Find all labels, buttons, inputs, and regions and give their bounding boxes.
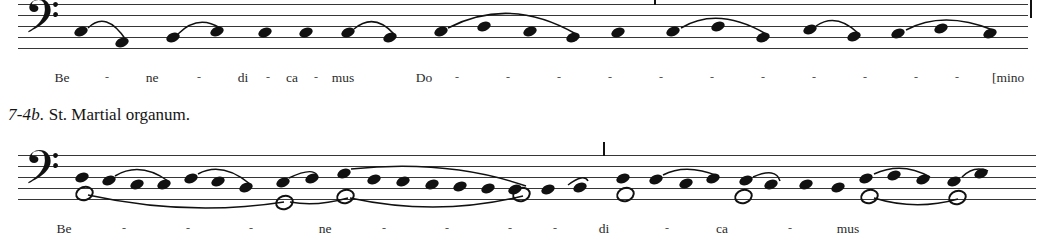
lyric-hyphen: -	[710, 70, 714, 85]
lyric-hyphen: -	[557, 70, 561, 85]
upper-voice-notehead	[366, 173, 382, 187]
lyric-hyphen: -	[608, 70, 612, 85]
lower-voice-notehead	[858, 186, 881, 206]
barline-tick	[603, 142, 605, 156]
upper-voice-notehead	[540, 183, 556, 197]
bass-clef-icon: 𝄢	[24, 0, 60, 50]
upper-voice-notehead	[710, 20, 726, 34]
upper-voice-notehead	[933, 22, 949, 36]
lyric-hyphen: -	[761, 70, 765, 85]
upper-voice-notehead	[648, 173, 664, 187]
lyric-syllable: Be	[57, 221, 72, 237]
upper-voice-notehead	[982, 27, 998, 41]
upper-voice-notehead	[886, 169, 902, 183]
upper-voice-notehead	[565, 31, 581, 45]
upper-voice-notehead	[798, 178, 814, 192]
upper-voice-notehead	[424, 178, 440, 192]
lyric-hyphen: -	[788, 221, 792, 236]
upper-voice-notehead	[183, 172, 199, 186]
lyric-hyphen: -	[955, 70, 959, 85]
upper-voice-notehead	[74, 171, 90, 185]
lyric-hyphen: -	[659, 70, 663, 85]
lyric-hyphen: -	[553, 221, 557, 236]
figure-page: 𝄢 Be-ne-di-ca-musDo-----------[mino 7-4b…	[0, 0, 1044, 242]
slur	[448, 13, 576, 34]
bass-clef-icon: 𝄢	[24, 145, 60, 201]
music-system-1: 𝄢	[0, 4, 1044, 66]
upper-voice-notehead	[336, 167, 352, 181]
upper-voice-notehead	[480, 182, 496, 196]
lyric-syllable: ne	[146, 70, 159, 86]
lyric-syllable: di	[238, 70, 249, 86]
upper-voice-notehead	[382, 31, 398, 45]
upper-voice-notehead	[830, 181, 846, 195]
lyric-syllable: ne	[319, 221, 332, 237]
lyric-syllable: mus	[837, 221, 860, 237]
lyric-syllable: di	[599, 221, 610, 237]
tenor-slur	[350, 196, 523, 207]
lyric-syllable: Be	[55, 70, 70, 86]
lyric-syllable: Do	[416, 70, 433, 86]
final-barline	[1030, 0, 1032, 18]
lyric-hyphen: -	[445, 221, 449, 236]
upper-voice-notehead	[890, 27, 906, 41]
upper-voice-notehead	[129, 178, 145, 192]
staff-line	[18, 26, 1028, 27]
music-system-2: 𝄢	[0, 155, 1044, 217]
upper-voice-notehead	[452, 180, 468, 194]
staff-line	[18, 4, 1028, 5]
upper-voice-notehead	[973, 167, 989, 181]
upper-voice-notehead	[304, 172, 320, 186]
staff-line	[18, 166, 1036, 167]
tenor-slur	[88, 195, 284, 208]
lower-voice-notehead	[273, 192, 296, 212]
lower-voice-notehead	[73, 183, 96, 203]
upper-voice-notehead	[476, 20, 492, 34]
staff-line	[18, 15, 1028, 16]
lyric-hyphen: -	[105, 70, 109, 85]
staff-line	[18, 48, 1028, 49]
lyric-hyphen: -	[122, 221, 126, 236]
lyric-syllable: ca	[286, 70, 298, 86]
staff-1: 𝄢	[18, 4, 1028, 50]
lyrics-line-1: Be-ne-di-ca-musDo-----------[mino	[0, 70, 1044, 90]
lyric-hyphen: -	[863, 70, 867, 85]
upper-voice-notehead	[238, 181, 254, 195]
lyric-hyphen: -	[508, 221, 512, 236]
lower-voice-notehead	[732, 186, 755, 206]
upper-voice-notehead	[763, 178, 779, 192]
lyrics-line-2: Be---ne----di-ca-mus	[0, 221, 1044, 241]
lyric-hyphen: -	[266, 70, 270, 85]
lyric-hyphen: -	[382, 221, 386, 236]
barline-tick	[654, 0, 656, 5]
lower-voice-notehead	[946, 187, 969, 207]
upper-voice-notehead	[858, 172, 874, 186]
lyric-hyphen: -	[314, 70, 318, 85]
upper-voice-notehead	[101, 174, 117, 188]
upper-voice-notehead	[738, 174, 754, 188]
staff-line	[18, 155, 1036, 156]
lyric-hyphen: -	[455, 70, 459, 85]
lyric-syllable: ca	[716, 221, 728, 237]
upper-voice-notehead	[755, 31, 771, 45]
lyric-hyphen: -	[249, 221, 253, 236]
lyric-hyphen: -	[812, 70, 816, 85]
lower-voice-notehead	[334, 186, 357, 206]
upper-voice-notehead	[156, 178, 172, 192]
staff-line	[18, 177, 1036, 178]
lyric-hyphen: -	[197, 70, 201, 85]
caption-text: St. Martial organum.	[49, 105, 190, 124]
lyric-hyphen: -	[506, 70, 510, 85]
upper-voice-notehead	[165, 31, 181, 45]
lyric-hyphen: -	[186, 221, 190, 236]
upper-voice-notehead	[846, 30, 862, 44]
upper-voice-notehead	[915, 173, 931, 187]
slur	[906, 20, 993, 30]
lyric-hyphen: -	[914, 70, 918, 85]
upper-voice-notehead	[705, 172, 721, 186]
upper-voice-notehead	[572, 181, 588, 195]
lyric-syllable: mus	[332, 70, 355, 86]
lyric-syllable: [mino	[992, 70, 1024, 86]
figure-caption: 7-4b. St. Martial organum.	[8, 105, 190, 125]
lyric-hyphen: -	[665, 221, 669, 236]
